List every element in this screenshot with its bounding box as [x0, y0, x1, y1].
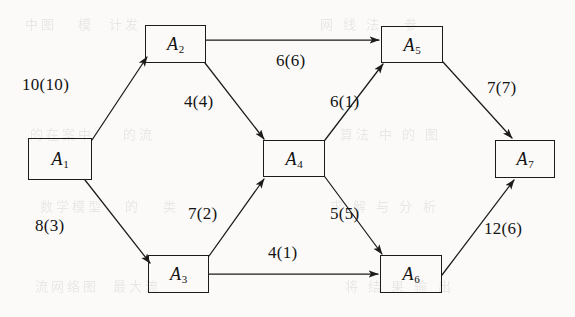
- graph-node-label: A3: [170, 265, 187, 283]
- node-letter: A: [52, 149, 63, 169]
- graph-edge-a5-to-a7: [443, 62, 512, 138]
- edge-label-a4-a5: 6(1): [330, 92, 360, 112]
- node-letter: A: [167, 34, 178, 54]
- graph-edge-a1-to-a2: [92, 57, 147, 140]
- graph-edge-a1-to-a3: [85, 180, 150, 263]
- node-index: 7: [528, 158, 534, 170]
- node-letter: A: [170, 264, 181, 284]
- node-index: 3: [182, 273, 188, 285]
- edge-label-a3-a4: 7(2): [188, 204, 218, 224]
- graph-node-a4: A4: [263, 140, 325, 177]
- node-letter: A: [286, 149, 297, 169]
- edge-label-a3-a6: 4(1): [268, 243, 298, 263]
- graph-node-a1: A1: [28, 138, 92, 180]
- node-index: 5: [415, 44, 421, 56]
- edge-label-a5-a7: 7(7): [487, 78, 517, 98]
- edge-label-a1-a3: 8(3): [35, 216, 65, 236]
- edge-label-a4-a6: 5(5): [330, 204, 360, 224]
- node-letter: A: [517, 149, 528, 169]
- graph-node-a5: A5: [381, 26, 443, 63]
- node-letter: A: [404, 35, 415, 55]
- graph-node-label: A6: [403, 265, 420, 283]
- figure-canvas: 中图 模 计发的在案中 的流数学模型 的 类流网络图 最大流网 线 法 参算法 …: [0, 0, 575, 317]
- node-letter: A: [403, 264, 414, 284]
- graph-node-label: A5: [404, 36, 421, 54]
- graph-node-a7: A7: [495, 140, 555, 178]
- edge-label-a2-a5: 6(6): [276, 51, 306, 71]
- graph-node-a6: A6: [380, 255, 442, 293]
- edge-label-a6-a7: 12(6): [484, 219, 522, 239]
- graph-node-a2: A2: [145, 25, 206, 63]
- node-index: 4: [297, 158, 303, 170]
- edge-label-a1-a2: 10(10): [22, 75, 69, 95]
- graph-edge-a2-to-a4: [205, 63, 264, 139]
- edge-label-a2-a4: 4(4): [184, 92, 214, 112]
- node-index: 1: [63, 158, 69, 170]
- graph-node-label: A7: [517, 150, 534, 168]
- graph-node-a3: A3: [148, 255, 209, 293]
- graph-node-label: A1: [52, 150, 69, 168]
- graph-node-label: A2: [167, 35, 184, 53]
- graph-node-label: A4: [286, 150, 303, 168]
- node-index: 6: [414, 273, 420, 285]
- node-index: 2: [179, 43, 185, 55]
